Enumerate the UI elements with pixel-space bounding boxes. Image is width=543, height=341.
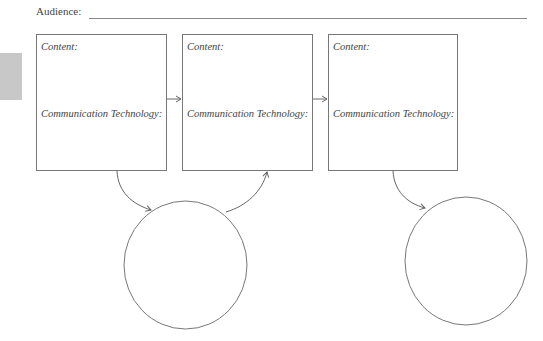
circle-2 (405, 197, 527, 325)
arrow-circle1-to-box2-icon (226, 172, 267, 212)
communication-technology-label: Communication Technology: (187, 108, 308, 119)
audience-label: Audience: (36, 5, 81, 17)
arrow-box3-to-circle2-icon (393, 171, 425, 208)
content-label: Content: (333, 41, 370, 52)
circle-1 (124, 201, 247, 329)
audience-input-line[interactable] (89, 18, 527, 19)
side-tab (0, 53, 22, 100)
flow-box-1: Content: Communication Technology: (36, 34, 167, 171)
flow-box-3: Content: Communication Technology: (328, 34, 458, 171)
arrow-box1-to-circle1-icon (117, 171, 151, 210)
content-label: Content: (187, 41, 224, 52)
content-label: Content: (41, 41, 78, 52)
communication-technology-label: Communication Technology: (333, 108, 454, 119)
flow-box-2: Content: Communication Technology: (182, 34, 313, 171)
communication-technology-label: Communication Technology: (41, 108, 162, 119)
